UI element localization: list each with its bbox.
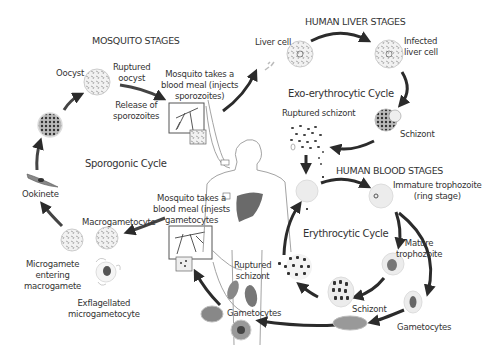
label-line: Ruptured	[234, 260, 271, 271]
label-immature-trophozoite: Immature trophozoite (ring stage)	[393, 180, 482, 202]
cycle-label-sporogonic: Sporogonic Cycle	[85, 158, 167, 169]
gametocyte-banana-icon	[333, 316, 367, 330]
label-oocyst: Oocyst	[56, 68, 84, 79]
blood-schizont-icon	[328, 277, 354, 307]
label-line: Release of	[113, 100, 159, 111]
label-line: Ruptured	[113, 62, 150, 73]
liver-schizont-icon	[375, 109, 401, 131]
label-blood-ruptured-schizont: Ruptured schizont	[234, 260, 271, 282]
label-gametocytes-right: Gametocytes	[397, 322, 451, 333]
red-blood-cell-icon	[296, 180, 318, 202]
exflagellated-microgametocyte-icon	[96, 258, 120, 285]
label-mosquito-meal-sporozoites: Mosquito takes a blood meal (injects spo…	[161, 69, 238, 102]
label-line: macrogamete	[24, 281, 81, 292]
section-title-blood: HUMAN BLOOD STAGES	[336, 165, 443, 176]
label-liver-cell: Liver cell	[255, 37, 291, 48]
label-line: Immature trophozoite	[393, 180, 482, 191]
label-line: blood meal (injests	[153, 204, 230, 215]
section-title-liver: HUMAN LIVER STAGES	[305, 16, 406, 27]
label-line: blood meal (injects	[161, 80, 238, 91]
mosquito-feeding-sporozoites-icon	[169, 103, 206, 144]
cycle-label-exo-erythrocytic: Exo-erythrocytic Cycle	[288, 88, 394, 99]
label-line: gametocytes	[153, 215, 230, 226]
oocyst-cell-icon	[38, 113, 62, 137]
label-line: Exflagellated	[68, 298, 140, 309]
label-microgamete-entering: Microgamete entering macrogamete	[24, 259, 81, 292]
label-blood-schizont: Schizont	[352, 304, 387, 315]
label-line: liver cell	[404, 47, 438, 58]
label-liver-schizont: Schizont	[400, 129, 435, 140]
label-macrogametocyte: Macrogametocyte	[82, 217, 156, 228]
liver-organ-icon	[236, 192, 263, 222]
label-line: oocyst	[113, 73, 150, 84]
label-mature-trophozoite: Mature trophozoite	[396, 238, 442, 260]
label-line: Infected	[404, 36, 438, 47]
label-ookinete: Ookinete	[22, 189, 59, 200]
ruptured-oocyst-icon	[84, 69, 110, 95]
label-line: microgametocyte	[68, 309, 140, 320]
label-infected-liver-cell: Infected liver cell	[404, 36, 438, 58]
label-line: sporozoites	[113, 111, 159, 122]
infected-liver-cell-icon	[375, 40, 403, 68]
mosquito-feeding-gametocytes-icon	[169, 226, 212, 271]
immature-trophozoite-icon	[369, 184, 393, 208]
microgamete-cell-icon	[61, 229, 83, 251]
label-gametocytes-left: Gametocytes	[227, 308, 281, 319]
label-release-sporozoites: Release of sporozoites	[113, 100, 159, 122]
label-line: trophozoite	[396, 249, 442, 260]
label-line: entering	[24, 270, 81, 281]
label-exflagellated-microgametocyte: Exflagellated microgametocyte	[68, 298, 140, 320]
label-line: sporozoites)	[161, 91, 238, 102]
label-line: schizont	[234, 271, 271, 282]
blood-ruptured-schizont-icon	[278, 254, 312, 280]
cycle-label-erythrocytic: Erythrocytic Cycle	[303, 228, 388, 239]
section-title-mosquito: MOSQUITO STAGES	[92, 35, 180, 46]
label-line: Mosquito takes a	[153, 193, 230, 204]
label-line: Mosquito takes a	[161, 69, 238, 80]
label-line: (ring stage)	[393, 191, 482, 202]
label-ruptured-oocyst: Ruptured oocyst	[113, 62, 150, 84]
label-liver-ruptured-schizont: Ruptured schizont	[282, 108, 356, 119]
macrogametocyte-cell-icon	[96, 227, 118, 249]
label-line: Microgamete	[24, 259, 81, 270]
label-line: Mature	[396, 238, 442, 249]
label-mosquito-meal-gametocytes: Mosquito takes a blood meal (injests gam…	[153, 193, 230, 226]
